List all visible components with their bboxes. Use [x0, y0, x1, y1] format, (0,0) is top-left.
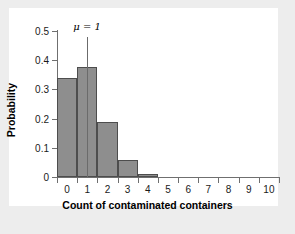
x-axis-tick [178, 178, 179, 183]
x-axis-tick-label: 3 [125, 184, 131, 195]
mean-annotation-label: μ = 1 [73, 21, 101, 32]
x-axis-tick [218, 178, 219, 183]
figure-container: 00.10.20.30.40.5 012345678910 μ = 1 Prob… [0, 0, 295, 234]
y-axis-tick-label-wrap: 0.4 [0, 60, 49, 61]
y-axis-tick-label: 0.4 [35, 55, 49, 66]
bar [118, 160, 138, 177]
x-axis-tick [77, 178, 78, 183]
y-axis-title: Probability [5, 83, 17, 137]
x-axis-tick [279, 178, 280, 183]
x-axis-tick [138, 178, 139, 183]
x-axis-tick-label: 4 [145, 184, 151, 195]
x-axis-tick-label: 6 [185, 184, 191, 195]
y-axis-tick-label: 0.3 [35, 84, 49, 95]
mean-marker-line [87, 37, 88, 177]
y-axis-tick-label-wrap: 0.1 [0, 148, 49, 149]
x-axis-tick-label: 10 [263, 184, 274, 195]
bar [57, 78, 77, 177]
y-axis-tick-label: 0.5 [35, 26, 49, 37]
x-axis-title: Count of contaminated containers [0, 199, 295, 211]
x-axis-tick-label: 5 [165, 184, 171, 195]
x-axis-tick [198, 178, 199, 183]
y-axis-tick-label: 0 [43, 172, 49, 183]
x-axis-tick [239, 178, 240, 183]
x-axis-tick [118, 178, 119, 183]
x-axis-tick-label: 8 [226, 184, 232, 195]
bar [138, 174, 158, 178]
x-axis-tick [97, 178, 98, 183]
x-axis-tick [158, 178, 159, 183]
x-axis-tick-label: 0 [64, 184, 70, 195]
x-axis-tick-label: 9 [246, 184, 252, 195]
y-axis-tick-label: 0.1 [35, 143, 49, 154]
y-axis-tick-label: 0.2 [35, 114, 49, 125]
bar [97, 122, 117, 177]
x-axis-tick-label: 2 [105, 184, 111, 195]
y-axis-tick-label-wrap: 0 [0, 177, 49, 178]
x-axis-tick-label: 7 [206, 184, 212, 195]
x-axis-line [57, 177, 280, 178]
x-axis-tick [259, 178, 260, 183]
y-axis-tick-label-wrap: 0.5 [0, 31, 49, 32]
x-axis-tick-label: 1 [84, 184, 90, 195]
bars-layer [57, 31, 279, 177]
x-axis-tick [57, 178, 58, 183]
